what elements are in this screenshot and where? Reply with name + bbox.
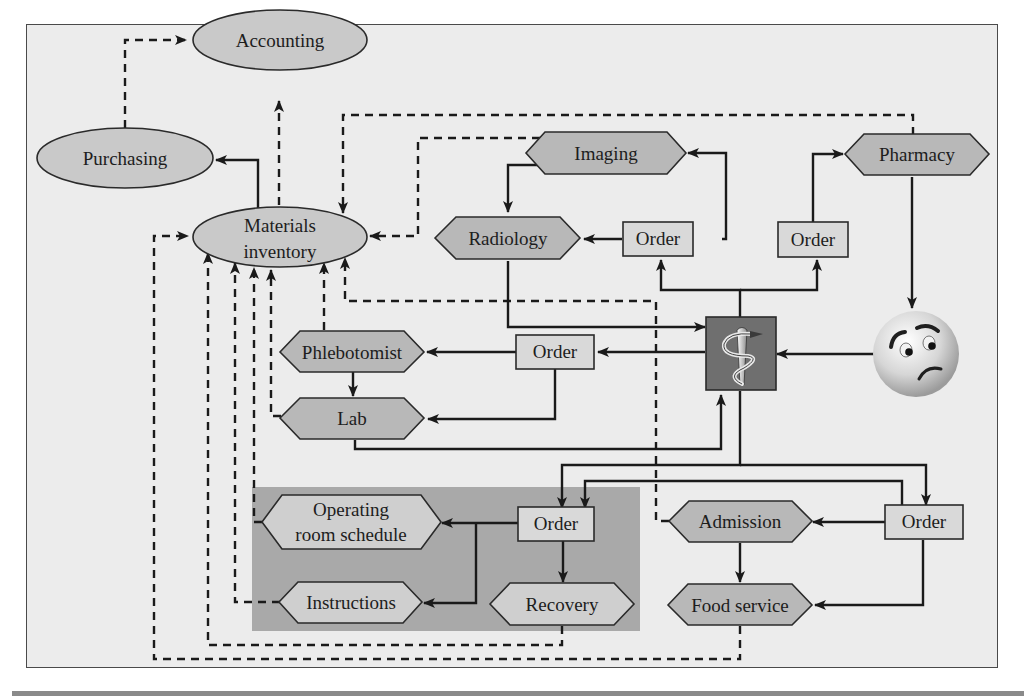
worried-face-icon <box>873 311 959 397</box>
node-admission[interactable]: Admission <box>669 501 812 542</box>
node-lab[interactable]: Lab <box>280 398 424 439</box>
node-order-surgery[interactable]: Order <box>518 507 594 541</box>
node-food-service[interactable]: Food service <box>668 584 812 625</box>
node-order-admission[interactable]: Order <box>885 505 963 539</box>
node-imaging[interactable]: Imaging <box>526 132 686 174</box>
node-pharmacy[interactable]: Pharmacy <box>845 134 989 175</box>
node-operating-room-schedule[interactable]: Operating room schedule <box>262 495 441 549</box>
node-order-pharmacy[interactable]: Order <box>778 222 848 257</box>
node-radiology[interactable]: Radiology <box>435 217 580 259</box>
node-patient[interactable] <box>873 311 959 397</box>
node-recovery[interactable]: Recovery <box>490 583 634 625</box>
node-order-lab[interactable]: Order <box>516 335 594 369</box>
diagram-canvas: Accounting Purchasing Materials inventor… <box>0 0 1036 697</box>
node-order-radiology[interactable]: Order <box>623 222 693 256</box>
node-accounting[interactable]: Accounting <box>193 10 367 70</box>
node-purchasing[interactable]: Purchasing <box>37 128 213 188</box>
diagram-svg: Accounting Purchasing Materials inventor… <box>0 0 1036 697</box>
node-phlebotomist[interactable]: Phlebotomist <box>280 331 424 372</box>
node-materials-inventory[interactable]: Materials inventory <box>193 207 367 267</box>
node-physician[interactable] <box>706 317 776 390</box>
node-instructions[interactable]: Instructions <box>279 582 422 623</box>
